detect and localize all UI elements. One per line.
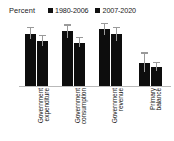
legend-item-2007-2020: 2007-2020 [95, 6, 135, 15]
legend-item-1980-2006: 1980-2006 [48, 6, 88, 15]
error-bar [42, 36, 43, 46]
error-bar [104, 24, 105, 35]
x-axis-category-label: Primarybalance [150, 88, 162, 140]
bar [37, 41, 48, 87]
bar [25, 34, 36, 86]
error-bar [144, 54, 145, 73]
category-label-line: revenue [118, 88, 124, 140]
error-bar-cap [101, 23, 108, 24]
legend-swatch-icon [95, 8, 100, 13]
bar [74, 43, 85, 86]
chart-figure: Percent 1980-2006 2007-2020 14121086420 … [0, 0, 174, 141]
x-axis-category-label: Governmentexpenditure [38, 88, 50, 140]
bar [99, 29, 110, 86]
error-bar-cap [141, 52, 148, 53]
bar [111, 34, 122, 86]
bar-group [62, 21, 85, 86]
bar [62, 31, 73, 86]
error-bar-cap [153, 62, 160, 63]
error-bar [116, 28, 117, 40]
error-bar [156, 63, 157, 71]
error-bar-cap [64, 24, 71, 25]
bar-group [25, 21, 48, 86]
error-bar-cap [27, 27, 34, 28]
plot-area: 14121086420 [22, 21, 172, 86]
chart-legend: 1980-2006 2007-2020 [48, 6, 136, 15]
legend-label: 1980-2006 [55, 6, 88, 15]
y-axis-label: Percent [9, 6, 35, 15]
legend-label: 2007-2020 [102, 6, 135, 15]
error-bar-cap [39, 35, 46, 36]
bar-group [139, 21, 162, 86]
x-axis-category-label: Governmentrevenue [112, 88, 124, 140]
bar-group [99, 21, 122, 86]
x-axis-line [19, 86, 171, 87]
error-bar-cap [76, 37, 83, 38]
error-bar [67, 26, 68, 39]
error-bar [79, 38, 80, 47]
legend-swatch-icon [48, 8, 53, 13]
x-axis-category-label: Governmentconsumption [75, 88, 87, 140]
category-label-line: expenditure [44, 88, 50, 140]
error-bar [30, 28, 31, 38]
error-bar-cap [113, 27, 120, 28]
category-label-line: consumption [81, 88, 87, 140]
category-label-line: balance [156, 88, 162, 140]
